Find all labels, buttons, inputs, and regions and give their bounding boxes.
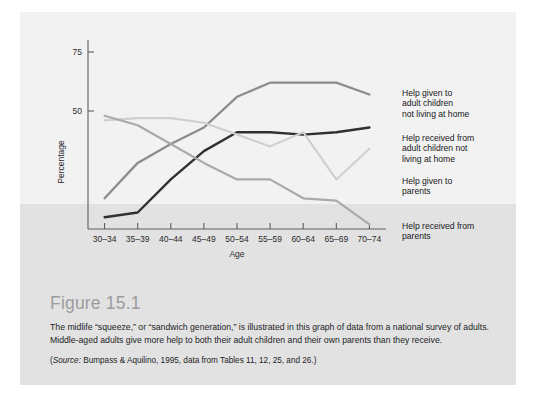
x-tick-label: 50–54 bbox=[225, 234, 249, 244]
series-line-2 bbox=[105, 118, 370, 179]
chart-area: 5075 30–3435–3940–4445–4950–5455–5960–64… bbox=[20, 12, 516, 277]
caption-block: Figure 15.1 The midlife “squeeze,” or “s… bbox=[50, 293, 490, 365]
x-axis-ticks: 30–3435–3940–4445–4950–5455–5960–6465–69… bbox=[93, 223, 382, 244]
figure-panel: 5075 30–3435–3940–4445–4950–5455–5960–64… bbox=[20, 12, 516, 385]
figure-title: Figure 15.1 bbox=[50, 293, 490, 314]
line-chart: 5075 30–3435–3940–4445–4950–5455–5960–64… bbox=[20, 12, 516, 277]
x-tick-label: 40–44 bbox=[159, 234, 183, 244]
y-axis-ticks: 5075 bbox=[73, 47, 94, 116]
x-tick-label: 60–64 bbox=[291, 234, 315, 244]
legend-label-1: living at home bbox=[402, 154, 455, 164]
figure-source: (Source: Bumpass & Aquilino, 1995, data … bbox=[50, 356, 490, 365]
chart-legend: Help given toadult childrennot living at… bbox=[369, 88, 474, 241]
source-text: Bumpass & Aquilino, 1995, data from Tabl… bbox=[81, 356, 316, 365]
legend-label-1: adult children not bbox=[402, 143, 468, 153]
legend-label-0: Help given to bbox=[402, 88, 452, 98]
legend-label-0: adult children bbox=[402, 98, 453, 108]
y-tick-label: 75 bbox=[73, 47, 83, 57]
x-tick-label: 30–34 bbox=[93, 234, 117, 244]
series-line-0 bbox=[105, 83, 370, 199]
legend-label-3: parents bbox=[402, 231, 431, 241]
legend-label-2: parents bbox=[402, 186, 431, 196]
x-tick-label: 65–69 bbox=[325, 234, 349, 244]
figure-caption: The midlife “squeeze,” or “sandwich gene… bbox=[50, 321, 490, 347]
series-lines bbox=[105, 83, 370, 225]
x-tick-label: 55–59 bbox=[258, 234, 282, 244]
x-tick-label: 35–39 bbox=[126, 234, 150, 244]
y-tick-label: 50 bbox=[73, 106, 83, 116]
x-tick-label: 70–74 bbox=[358, 234, 382, 244]
x-axis-title: Age bbox=[229, 249, 244, 259]
source-label: Source: bbox=[53, 356, 81, 365]
x-tick-label: 45–49 bbox=[192, 234, 216, 244]
y-axis-title: Percentage bbox=[56, 140, 66, 184]
legend-label-1: Help received from bbox=[402, 133, 474, 143]
legend-label-2: Help given to bbox=[402, 176, 452, 186]
legend-label-0: not living at home bbox=[402, 109, 470, 119]
legend-label-3: Help received from bbox=[402, 221, 474, 231]
series-line-1 bbox=[105, 128, 370, 218]
